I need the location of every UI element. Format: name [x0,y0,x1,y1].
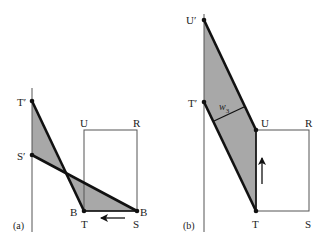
label-s-prime-a: S′ [17,150,26,162]
label-u-prime-b: U′ [186,14,196,26]
point-t-b [254,209,259,214]
label-s-b: S [305,218,311,230]
label-b-left-a: B [70,206,77,218]
label-u-a: U [80,117,88,129]
label-t-b: T [252,218,259,230]
caption-a: (a) [13,220,24,232]
diagram-canvas: T′ S′ U R B B T S (a) U′ T′ w3 [0,0,330,241]
label-t-prime-b: T′ [188,97,197,109]
point-t-prime-b [202,100,207,105]
label-b-right-a: B [140,206,147,218]
point-s-prime-a [30,153,35,158]
point-u-prime-b [202,18,207,23]
label-s-a: S [133,218,139,230]
label-t-prime-a: T′ [17,96,26,108]
label-u-b: U [261,117,269,129]
caption-b: (b) [183,220,195,232]
point-u-b [254,128,259,133]
label-r-b: R [305,117,313,129]
point-b-right-a [135,209,140,214]
rectangle-urst-b [256,130,309,211]
point-b-left-a [82,209,87,214]
label-t-a: T [81,218,88,230]
panel-b: U′ T′ w3 U R T S (b) [183,14,313,232]
label-r-a: R [133,117,141,129]
point-t-prime-a [30,99,35,104]
panel-a: T′ S′ U R B B T S (a) [13,88,147,232]
